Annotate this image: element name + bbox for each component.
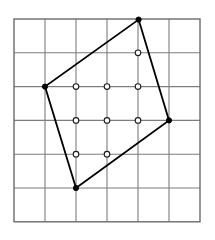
quadrilateral-vertex-bottom bbox=[73, 185, 78, 190]
quadrilateral-vertex-right bbox=[166, 118, 171, 123]
quadrilateral-vertex-left bbox=[42, 84, 47, 89]
interior-lattice-point bbox=[135, 50, 141, 56]
interior-lattice-point bbox=[135, 118, 141, 124]
interior-lattice-point bbox=[73, 118, 79, 124]
interior-lattice-point bbox=[135, 84, 141, 90]
interior-lattice-point bbox=[73, 151, 79, 157]
interior-lattice-point bbox=[73, 84, 79, 90]
lattice-diagram bbox=[0, 0, 215, 240]
interior-lattice-point bbox=[104, 118, 110, 124]
quadrilateral-vertex-top bbox=[136, 17, 141, 22]
interior-lattice-point bbox=[104, 84, 110, 90]
interior-lattice-point bbox=[104, 151, 110, 157]
lattice-figure bbox=[0, 0, 215, 240]
